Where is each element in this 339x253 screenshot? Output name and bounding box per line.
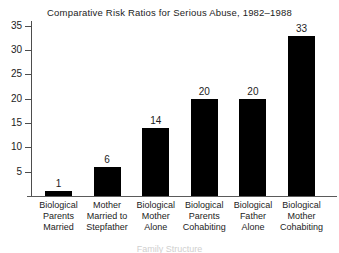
y-axis-tick-label: 35 bbox=[0, 21, 22, 31]
y-axis-tick bbox=[25, 123, 31, 124]
x-axis-category-line: Mother bbox=[128, 211, 184, 222]
x-axis-category-label: BiologicalFatherAlone bbox=[225, 200, 281, 233]
y-axis-tick bbox=[25, 99, 31, 100]
x-axis-category-line: Cohabiting bbox=[274, 222, 330, 233]
x-axis-category-line: Parents bbox=[31, 211, 87, 222]
x-axis-category-line: Married to bbox=[79, 211, 135, 222]
bar-value-label: 1 bbox=[39, 179, 79, 189]
y-axis-line bbox=[31, 21, 32, 197]
bar bbox=[239, 99, 266, 196]
x-axis-category-line: Biological bbox=[31, 200, 87, 211]
x-axis-category-label: BiologicalMotherAlone bbox=[128, 200, 184, 233]
x-axis-category-line: Stepfather bbox=[79, 222, 135, 233]
y-axis-tick bbox=[25, 26, 31, 27]
x-axis-caption: Family Structure bbox=[0, 244, 339, 253]
x-axis-category-line: Father bbox=[225, 211, 281, 222]
y-axis-tick-label: 25 bbox=[0, 69, 22, 79]
x-axis-category-line: Biological bbox=[225, 200, 281, 211]
bar bbox=[45, 191, 72, 196]
x-axis-category-line: Alone bbox=[128, 222, 184, 233]
x-axis-category-line: Alone bbox=[225, 222, 281, 233]
y-axis-tick-label: 15 bbox=[0, 118, 22, 128]
bar-value-label: 20 bbox=[233, 87, 273, 97]
x-axis-category-label: MotherMarried toStepfather bbox=[79, 200, 135, 233]
bar-value-label: 6 bbox=[87, 155, 127, 165]
x-axis-category-line: Parents bbox=[176, 211, 232, 222]
x-axis-category-line: Cohabiting bbox=[176, 222, 232, 233]
x-axis-category-line: Married bbox=[31, 222, 87, 233]
y-axis-tick bbox=[25, 172, 31, 173]
chart-title: Comparative Risk Ratios for Serious Abus… bbox=[0, 7, 339, 18]
y-axis-tick bbox=[25, 50, 31, 51]
bar bbox=[94, 167, 121, 196]
y-axis-tick-label: 5 bbox=[0, 167, 22, 177]
x-axis-category-label: BiologicalParentsCohabiting bbox=[176, 200, 232, 233]
y-axis-tick bbox=[25, 74, 31, 75]
x-axis-line bbox=[27, 196, 337, 197]
bar-chart: Comparative Risk Ratios for Serious Abus… bbox=[0, 0, 339, 253]
x-axis-category-label: BiologicalParentsMarried bbox=[31, 200, 87, 233]
bar bbox=[191, 99, 218, 196]
bar bbox=[288, 36, 315, 196]
y-axis-tick-label: 20 bbox=[0, 94, 22, 104]
bar bbox=[142, 128, 169, 196]
x-axis-category-line: Biological bbox=[274, 200, 330, 211]
bar-value-label: 14 bbox=[136, 116, 176, 126]
bar-value-label: 20 bbox=[184, 87, 224, 97]
y-axis-tick-label: 10 bbox=[0, 142, 22, 152]
x-axis-category-label: BiologicalMotherCohabiting bbox=[274, 200, 330, 233]
x-axis-category-line: Mother bbox=[274, 211, 330, 222]
x-axis-category-line: Mother bbox=[79, 200, 135, 211]
y-axis-tick-label: 30 bbox=[0, 45, 22, 55]
y-axis-tick bbox=[25, 147, 31, 148]
x-axis-category-line: Biological bbox=[128, 200, 184, 211]
bar-value-label: 33 bbox=[282, 24, 322, 34]
x-axis-category-line: Biological bbox=[176, 200, 232, 211]
